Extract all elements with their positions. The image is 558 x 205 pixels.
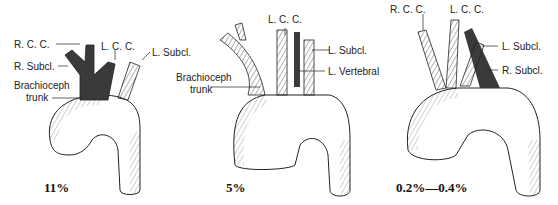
label-brachio-1: Brachioceph bbox=[14, 80, 70, 91]
label-lcc: L. C. C. bbox=[450, 4, 484, 15]
panel-vertebral-arch: L. C. C. L. Subcl. L. Vertebral Brachioc… bbox=[180, 0, 370, 205]
percentage-label: 11% bbox=[44, 180, 69, 196]
panel-bovine-arch: R. C. C. L. C. C. R. Subcl. L. Subcl. Br… bbox=[0, 0, 190, 205]
percentage-label: 0.2%—0.4% bbox=[396, 180, 468, 196]
label-lsubcl: L. Subcl. bbox=[328, 45, 367, 56]
aortic-arch-illustration-3 bbox=[368, 0, 558, 205]
aortic-arch-illustration-2 bbox=[180, 0, 370, 205]
label-brachio-1: Brachioceph bbox=[176, 72, 232, 83]
label-rcc: R. C. C. bbox=[14, 39, 50, 50]
label-rsubcl: R. Subcl. bbox=[14, 61, 55, 72]
label-lsubcl: L. Subcl. bbox=[502, 41, 541, 52]
panel-aberrant-rsubcl-arch: R. C. C. L. C. C. L. Subcl. R. Subcl. 0.… bbox=[368, 0, 558, 205]
label-brachio-2: trunk bbox=[26, 92, 48, 103]
label-rsubcl: R. Subcl. bbox=[502, 65, 543, 76]
label-lcc: L. C. C. bbox=[101, 41, 135, 52]
label-brachio-2: trunk bbox=[190, 84, 212, 95]
label-lcc: L. C. C. bbox=[268, 14, 302, 25]
label-rcc: R. C. C. bbox=[390, 4, 426, 15]
percentage-label: 5% bbox=[226, 180, 246, 196]
